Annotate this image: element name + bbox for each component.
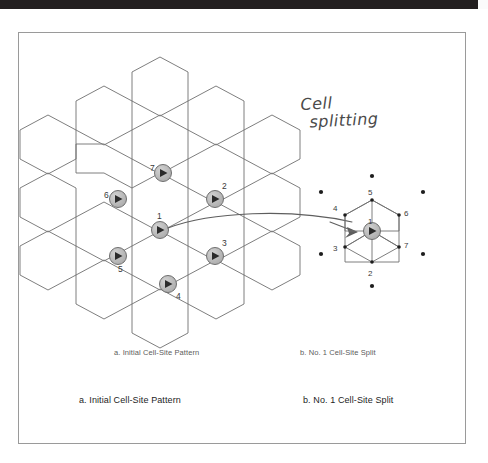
outer-dot-upper-left <box>319 190 323 194</box>
vertex-dot-4 <box>343 213 347 217</box>
cell-site-marker-5[interactable] <box>110 248 127 265</box>
split-label-1: 1 <box>368 217 373 226</box>
cell-site-marker-2[interactable] <box>207 191 224 208</box>
site-label-1: 1 <box>157 211 162 221</box>
cell-site-marker-7[interactable] <box>155 165 172 182</box>
split-label-6: 6 <box>404 209 409 218</box>
outer-dot-lower-right <box>421 252 425 256</box>
site-label-4: 4 <box>176 291 181 301</box>
split-label-7: 7 <box>404 241 409 250</box>
site-label-3: 3 <box>222 238 227 248</box>
split-label-5: 5 <box>368 188 373 197</box>
outer-dot-lower-left <box>319 252 323 256</box>
cell-site-marker-3[interactable] <box>207 248 224 265</box>
caption-small-left: a. Initial Cell-Site Pattern <box>114 348 199 357</box>
split-label-4: 4 <box>333 204 338 213</box>
site-label-2: 2 <box>222 181 227 191</box>
left-hex-grid <box>20 57 300 348</box>
handwritten-line-1: Cell <box>300 93 333 114</box>
left-cell-sites <box>110 165 224 293</box>
cell-site-marker-4[interactable] <box>160 276 177 293</box>
vertex-dot-7 <box>397 245 401 249</box>
vertex-dot-6 <box>397 213 401 217</box>
vertex-dot-2 <box>370 260 374 264</box>
vertex-dot-3 <box>343 245 347 249</box>
outer-dot-bottom <box>370 284 374 288</box>
split-label-3: 3 <box>333 244 338 253</box>
caption-small-right: b. No. 1 Cell-Site Split <box>300 348 376 357</box>
outer-dot-top <box>370 174 374 178</box>
handwritten-annotation: Cell splitting <box>300 89 432 133</box>
site-label-6: 6 <box>104 190 109 200</box>
figure-diagram: 1 2 3 4 5 6 7 <box>0 0 488 463</box>
site-label-5: 5 <box>118 264 123 274</box>
page-canvas: 1 2 3 4 5 6 7 <box>0 0 488 463</box>
cell-splitting-arrow <box>168 213 358 238</box>
cell-site-marker-1[interactable] <box>152 222 169 239</box>
caption-large-right: b. No. 1 Cell-Site Split <box>303 395 393 405</box>
caption-large-left: a. Initial Cell-Site Pattern <box>79 395 181 405</box>
site-label-7: 7 <box>150 163 155 173</box>
split-label-2: 2 <box>368 269 373 278</box>
vertex-dot-5 <box>370 198 374 202</box>
outer-dot-upper-right <box>421 190 425 194</box>
cell-site-marker-6[interactable] <box>110 191 127 208</box>
